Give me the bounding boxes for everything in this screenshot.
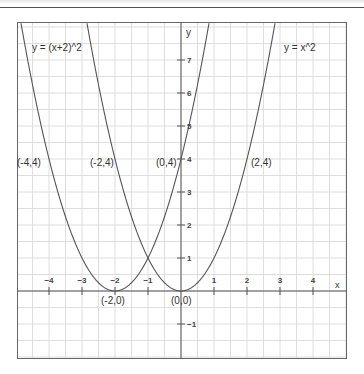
point-label-0-0: (0,0) [171, 295, 192, 306]
y-tick-label: 4 [187, 155, 192, 164]
y-tick-label: 3 [187, 188, 192, 197]
y-tick-label: 2 [187, 221, 192, 230]
x-tick-label: 4 [311, 276, 316, 285]
y-tick-label: 7 [187, 56, 192, 65]
x-tick-label: −3 [77, 276, 87, 285]
grid [18, 23, 347, 359]
equation-label-left: y = (x+2)^2 [32, 42, 82, 53]
axis-label-y: y [186, 27, 191, 38]
axis-label-x: x [335, 280, 340, 290]
parabola-chart: −4−3−2−11234−11234567 y x y = (x+2)^2 y … [0, 0, 364, 374]
x-tick-label: −4 [44, 276, 54, 285]
y-tick-label: 6 [187, 89, 192, 98]
point-label-m2-0: (-2,0) [101, 295, 125, 306]
x-tick-label: −2 [110, 276, 120, 285]
y-tick-label: 1 [187, 254, 192, 263]
point-label-2-4: (2,4) [251, 157, 272, 168]
point-label-m4-4: (-4,4) [17, 157, 41, 168]
point-label-0-4: (0,4) [156, 157, 177, 168]
x-tick-label: −1 [143, 276, 153, 285]
x-tick-label: 2 [245, 276, 250, 285]
plot-frame [18, 23, 347, 359]
equation-label-right: y = x^2 [284, 42, 316, 53]
y-tick-label: 5 [187, 122, 192, 131]
point-label-m2-4: (-2,4) [90, 157, 114, 168]
x-tick-label: 3 [278, 276, 283, 285]
axes [18, 23, 347, 359]
y-tick-label: −1 [187, 320, 197, 329]
x-tick-label: 1 [212, 276, 217, 285]
